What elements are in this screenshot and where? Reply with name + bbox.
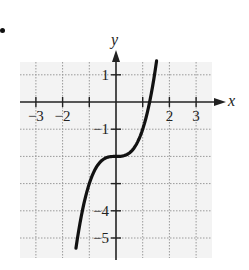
x-axis-label: x [227, 92, 235, 109]
y-tick-label: −5 [93, 230, 109, 246]
y-tick-label: 1 [102, 67, 110, 83]
x-tick-label: −2 [55, 108, 71, 124]
y-tick-label: −1 [93, 121, 109, 137]
cubic-function-graph: −3−2231−1−4−5 x y [0, 0, 249, 270]
y-axis-arrow-icon [112, 50, 120, 62]
y-axis-label: y [109, 31, 119, 49]
x-tick-label: 3 [192, 108, 200, 124]
x-axis-arrow-icon [214, 98, 226, 106]
x-tick-label: −3 [28, 108, 44, 124]
y-tick-label: −4 [93, 203, 109, 219]
x-tick-label: 2 [166, 108, 174, 124]
